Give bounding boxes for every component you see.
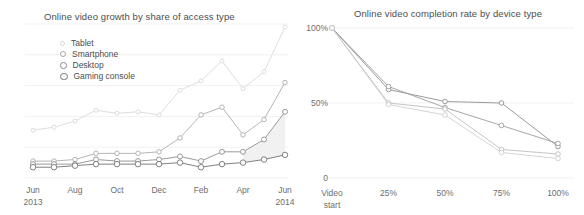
- series-line: [332, 28, 558, 147]
- data-point: [220, 105, 225, 110]
- y-tick-label: 0: [300, 173, 328, 183]
- data-point: [241, 133, 246, 138]
- x-tick-label: Feb: [179, 185, 223, 195]
- x-tick-label: 75%: [477, 188, 527, 198]
- data-point: [499, 101, 504, 106]
- chart-panel-video-growth: Online video growth by share of access t…: [0, 0, 292, 215]
- legend-item-desktop[interactable]: Desktop: [60, 60, 135, 71]
- data-point: [241, 149, 246, 154]
- data-point: [94, 108, 98, 112]
- data-point: [156, 161, 162, 167]
- data-point: [93, 161, 99, 167]
- data-point: [240, 160, 246, 166]
- data-point: [114, 161, 120, 167]
- data-point: [282, 152, 288, 158]
- data-point: [262, 70, 266, 74]
- data-point: [241, 87, 245, 91]
- data-point: [262, 137, 267, 142]
- chart-legend-video-growth: TabletSmartphoneDesktopGaming console: [60, 38, 135, 82]
- data-point: [135, 161, 141, 167]
- data-point: [178, 154, 183, 159]
- data-point: [136, 151, 141, 156]
- legend-item-smartphone[interactable]: Smartphone: [60, 49, 135, 60]
- data-point: [73, 119, 77, 123]
- video-growth-plot: [0, 0, 292, 215]
- data-point: [262, 117, 267, 122]
- data-point: [115, 111, 119, 115]
- x-tick-label: Apr: [221, 185, 265, 195]
- data-point: [178, 88, 182, 92]
- legend-item-label: Gaming console: [74, 71, 135, 81]
- data-point: [330, 26, 335, 31]
- data-point: [177, 160, 183, 166]
- completion-rate-plot: [292, 0, 584, 215]
- legend-item-label: Tablet: [71, 38, 94, 48]
- data-point: [199, 79, 203, 83]
- x-tick-label: Video: [307, 188, 357, 198]
- x-tick-label: 100%: [533, 188, 583, 198]
- data-point: [443, 99, 448, 104]
- x-tick-label: Oct: [95, 185, 139, 195]
- data-point: [73, 157, 78, 162]
- x-tick-sublabel: start: [307, 200, 357, 210]
- data-point: [443, 113, 448, 118]
- data-point: [31, 128, 35, 132]
- data-point: [556, 156, 561, 161]
- legend-item-label: Smartphone: [72, 49, 118, 59]
- data-point: [556, 152, 561, 157]
- legend-marker-icon: [60, 62, 67, 69]
- legend-marker-icon: [60, 41, 65, 46]
- data-point: [52, 125, 56, 129]
- data-point: [499, 123, 504, 128]
- data-point: [283, 109, 288, 114]
- data-point: [72, 163, 78, 169]
- legend-marker-icon: [60, 73, 68, 81]
- data-point: [94, 151, 99, 156]
- x-tick-label: Aug: [53, 185, 97, 195]
- legend-item-gaming-console[interactable]: Gaming console: [60, 71, 135, 82]
- legend-marker-icon: [60, 51, 66, 57]
- data-point: [198, 164, 204, 170]
- x-tick-label: 50%: [420, 188, 470, 198]
- series-line: [332, 28, 558, 159]
- x-tick-label: Dec: [137, 185, 181, 195]
- data-point: [51, 164, 57, 170]
- dashboard-root: Online video growth by share of access t…: [0, 0, 584, 215]
- data-point: [283, 80, 288, 85]
- data-point: [136, 110, 140, 114]
- data-point: [199, 113, 204, 118]
- data-point: [261, 157, 267, 163]
- data-point: [219, 161, 225, 167]
- x-tick-sublabel: 2013: [11, 197, 55, 207]
- x-tick-label: Jun: [11, 185, 55, 195]
- data-point: [556, 141, 561, 146]
- data-point: [178, 136, 183, 141]
- data-point: [157, 150, 162, 155]
- data-point: [386, 84, 391, 89]
- data-point: [30, 164, 36, 170]
- legend-item-label: Desktop: [73, 60, 104, 70]
- data-point: [115, 151, 120, 156]
- data-point: [443, 107, 448, 112]
- data-point: [220, 59, 224, 63]
- data-point: [199, 159, 204, 164]
- data-point: [220, 149, 225, 154]
- data-point: [499, 150, 504, 155]
- data-point: [386, 102, 391, 107]
- chart-panel-completion-rate: Online video completion rate by device t…: [292, 0, 584, 215]
- data-point: [157, 113, 161, 117]
- series-line: [332, 28, 558, 154]
- series-line: [332, 28, 558, 144]
- x-tick-label: 25%: [364, 188, 414, 198]
- y-tick-label: 100%: [300, 23, 328, 33]
- legend-item-tablet[interactable]: Tablet: [60, 38, 135, 49]
- data-point: [283, 25, 287, 29]
- y-tick-label: 50%: [300, 98, 328, 108]
